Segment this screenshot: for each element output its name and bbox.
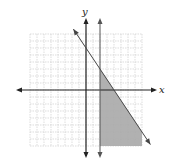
y-axis-label: y: [81, 6, 88, 17]
coordinate-graph: x y: [0, 0, 177, 165]
y-axis-down-arrow-icon: [84, 152, 89, 158]
diagonal-arrow-bottom-icon: [145, 138, 150, 144]
y-axis-up-arrow-icon: [84, 18, 89, 24]
vertical-line-down-arrow-icon: [98, 152, 103, 158]
vertical-line-up-arrow-icon: [98, 18, 103, 24]
x-axis-left-arrow-icon: [16, 88, 22, 93]
x-axis-label: x: [159, 84, 165, 95]
x-axis-right-arrow-icon: [151, 88, 157, 93]
shaded-region: [100, 69, 142, 146]
diagonal-arrow-top-icon: [73, 29, 78, 35]
